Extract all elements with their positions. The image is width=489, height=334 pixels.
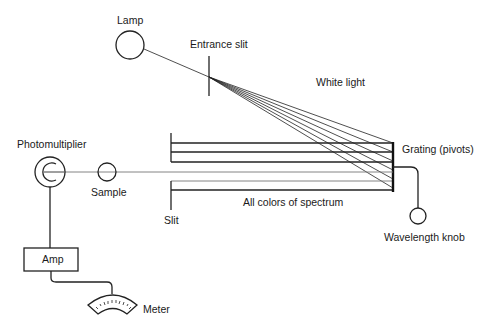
wavelength-knob-icon[interactable] bbox=[410, 208, 426, 224]
lamp-label: Lamp bbox=[117, 14, 143, 26]
wavelength-knob-label: Wavelength knob bbox=[384, 231, 465, 243]
spectrum-beams bbox=[171, 143, 393, 190]
photomultiplier-label: Photomultiplier bbox=[17, 138, 87, 150]
white-light-fan bbox=[209, 77, 393, 188]
spectrum-label: All colors of spectrum bbox=[243, 196, 344, 208]
knob-linkage bbox=[393, 167, 418, 208]
sample-label: Sample bbox=[91, 186, 127, 198]
slit-label: Slit bbox=[164, 214, 179, 226]
white-light-label: White light bbox=[316, 76, 365, 88]
incident-beam bbox=[144, 49, 209, 77]
lamp-icon bbox=[116, 31, 144, 59]
spectrophotometer-diagram: Lamp Entrance slit White light Slit Grat… bbox=[0, 0, 489, 334]
grating-label: Grating (pivots) bbox=[402, 143, 474, 155]
amp-label: Amp bbox=[42, 253, 64, 265]
meter-icon bbox=[88, 295, 137, 314]
entrance-slit-label: Entrance slit bbox=[190, 38, 248, 50]
amp-meter-wire bbox=[51, 271, 112, 294]
meter-label: Meter bbox=[143, 303, 170, 315]
